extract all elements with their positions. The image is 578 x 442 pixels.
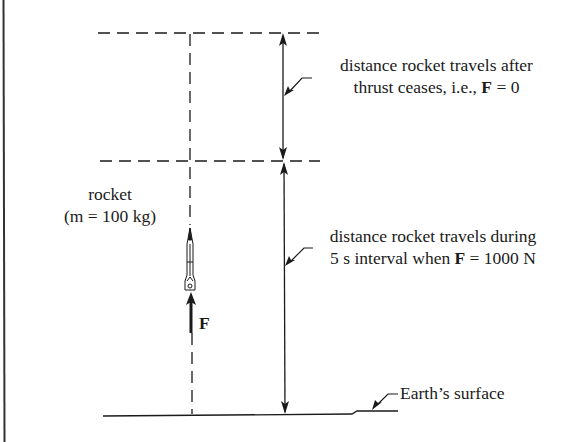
coast-label-line1: distance rocket travels after bbox=[315, 54, 558, 76]
thrust-label-line2: 5 s interval when F = 1000 N bbox=[307, 247, 559, 269]
force-label: F bbox=[199, 312, 210, 334]
thrust-distance-arrow bbox=[284, 164, 285, 412]
left-border bbox=[4, 0, 5, 442]
earth-surface-label: Earth’s surface bbox=[400, 382, 504, 404]
rocket-icon bbox=[185, 228, 195, 290]
rocket-title: rocket bbox=[55, 183, 165, 205]
thrust-label-line1: distance rocket travels during bbox=[307, 225, 559, 247]
rocket-mass: (m = 100 kg) bbox=[55, 205, 165, 227]
coast-label-leader bbox=[289, 78, 312, 92]
coast-distance-label: distance rocket travels after thrust cea… bbox=[315, 54, 558, 98]
leader-arrowhead-icon bbox=[285, 256, 295, 266]
earth-surface-line bbox=[103, 411, 398, 416]
coast-label-line2: thrust ceases, i.e., F = 0 bbox=[315, 76, 558, 98]
thrust-distance-label: distance rocket travels during 5 s inter… bbox=[307, 225, 559, 269]
force-symbol: F bbox=[199, 313, 210, 333]
rocket-label: rocket (m = 100 kg) bbox=[55, 183, 165, 227]
